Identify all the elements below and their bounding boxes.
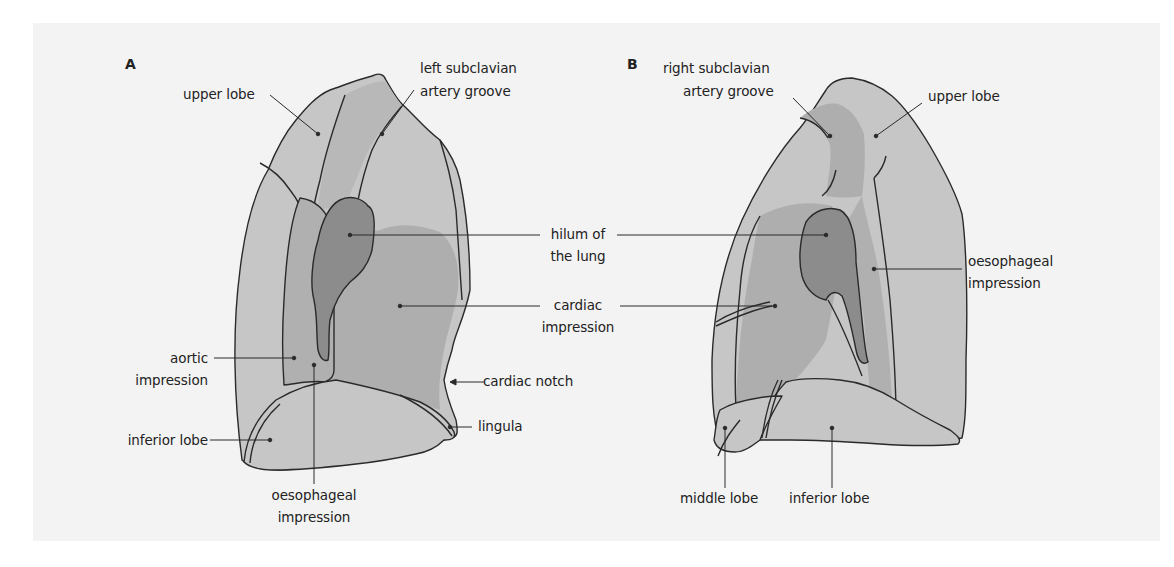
- label-a-oesophageal-line1: oesophageal: [264, 487, 364, 504]
- label-hilum-line2: the lung: [536, 248, 620, 265]
- label-a-lingula: lingula: [478, 418, 523, 435]
- label-b-middle-lobe: middle lobe: [680, 490, 758, 507]
- label-a-left-subclavian-line1: left subclavian: [420, 60, 517, 77]
- label-hilum-line1: hilum of: [536, 226, 620, 243]
- label-cardiac-line2: impression: [530, 319, 626, 336]
- right-lung-medial-view: [712, 78, 967, 456]
- label-a-left-subclavian-line2: artery groove: [420, 83, 511, 100]
- label-a-aortic-line1: aortic: [140, 350, 208, 367]
- panel-a-letter: A: [125, 56, 136, 72]
- label-a-oesophageal-line2: impression: [264, 509, 364, 526]
- label-a-aortic-line2: impression: [120, 372, 208, 389]
- left-lung-medial-view: [235, 74, 470, 470]
- label-a-upper-lobe: upper lobe: [183, 86, 255, 103]
- panel-b-letter: B: [627, 56, 638, 72]
- label-b-right-subclavian-line1: right subclavian: [663, 60, 770, 77]
- label-cardiac-line1: cardiac: [536, 297, 620, 314]
- label-b-right-subclavian-line2: artery groove: [683, 83, 774, 100]
- label-b-oesophageal-line2: impression: [968, 275, 1041, 292]
- label-b-upper-lobe: upper lobe: [928, 88, 1000, 105]
- label-a-cardiac-notch: cardiac notch: [483, 373, 573, 390]
- label-b-inferior-lobe: inferior lobe: [789, 490, 869, 507]
- label-b-oesophageal-line1: oesophageal: [968, 253, 1053, 270]
- label-a-inferior-lobe: inferior lobe: [100, 432, 208, 449]
